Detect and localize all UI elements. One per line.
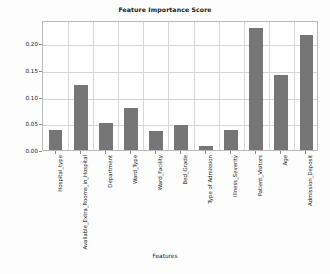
gridline-vertical <box>219 22 220 150</box>
bar <box>149 131 163 150</box>
x-tick-mark <box>130 151 131 154</box>
gridline-vertical <box>294 22 295 150</box>
x-tick-mark <box>205 151 206 154</box>
x-tick-mark <box>255 151 256 154</box>
x-tick-mark <box>105 151 106 154</box>
x-axis-label: Features <box>0 253 330 259</box>
plot-area <box>42 21 318 151</box>
gridline-vertical <box>244 22 245 150</box>
x-tick-mark <box>230 151 231 154</box>
gridline-horizontal <box>43 72 317 73</box>
x-tick-mark <box>280 151 281 154</box>
bar <box>174 125 188 150</box>
gridline-vertical <box>68 22 69 150</box>
gridline-horizontal <box>43 45 317 46</box>
gridline-vertical <box>168 22 169 150</box>
bar <box>74 85 88 150</box>
bar <box>274 75 288 150</box>
x-tick-mark <box>305 151 306 154</box>
y-tick-label: 0.00 <box>2 148 38 154</box>
bar <box>49 130 63 150</box>
bar <box>249 28 263 150</box>
x-tick-label: Ward_Facility <box>157 155 163 190</box>
x-tick-label: Admission_Deposit <box>307 155 313 206</box>
x-tick-label: Age <box>282 155 288 165</box>
y-tick-label: 0.05 <box>2 121 38 127</box>
gridline-vertical <box>269 22 270 150</box>
chart-title: Feature Importance Score <box>0 6 330 13</box>
x-tick-label: Available_Extra_Rooms_in_Hospital <box>82 155 88 249</box>
gridline-vertical <box>118 22 119 150</box>
x-tick-label: Hospital_type <box>57 155 63 192</box>
y-tick-label: 0.20 <box>2 41 38 47</box>
gridline-vertical <box>194 22 195 150</box>
x-tick-mark <box>80 151 81 154</box>
x-tick-label: Patient_Visitors <box>257 155 263 196</box>
x-tick-label: Department <box>107 155 113 188</box>
y-tick-label: 0.15 <box>2 68 38 74</box>
bar <box>224 130 238 150</box>
gridline-vertical <box>143 22 144 150</box>
figure-canvas: Feature Importance Score 0.000.050.100.1… <box>0 0 330 274</box>
y-tick-mark <box>39 151 42 152</box>
x-tick-label: Bed_Grade <box>182 155 188 185</box>
bar <box>199 146 213 150</box>
bar <box>124 108 138 150</box>
x-tick-label: Illness_Severity <box>232 155 238 197</box>
x-tick-label: Type of Admission <box>207 155 213 204</box>
x-tick-mark <box>155 151 156 154</box>
y-tick-label: 0.10 <box>2 95 38 101</box>
bar <box>99 123 113 150</box>
x-tick-mark <box>180 151 181 154</box>
bar <box>300 35 314 150</box>
gridline-vertical <box>93 22 94 150</box>
x-tick-label: Ward_Type <box>132 155 138 184</box>
x-tick-mark <box>55 151 56 154</box>
